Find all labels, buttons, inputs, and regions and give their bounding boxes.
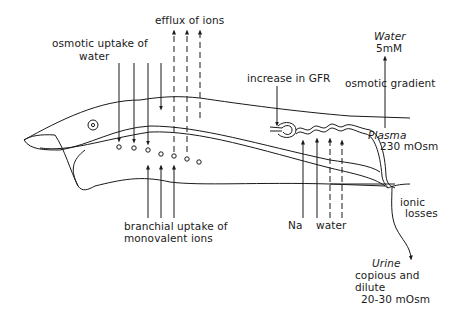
gill-pore [172,154,176,158]
water-env-conc: 5mM [376,42,402,54]
plasma-conc: 230 mOsm [380,140,438,152]
fish-belly [55,135,385,190]
gfr-label: increase in GFR [247,72,330,84]
urine-conc: 20-30 mOsm [361,293,430,305]
gill-pore [197,160,201,164]
glomerulus [270,126,292,135]
gill-pore [185,157,189,161]
water-env-label: Water [374,30,406,42]
gill-pore [117,145,121,149]
urine-desc-2: dilute [355,281,385,293]
ionic-losses-label-2: losses [405,207,438,219]
efflux-label: efflux of ions [155,14,224,26]
fish-outline-dorsal [24,97,410,140]
gill-pore [159,152,163,156]
gill-pore [132,146,136,150]
urine-label: Urine [372,257,401,269]
water-reabs-label: water [316,219,346,231]
eye-icon [88,120,98,130]
osmotic-gradient-label: osmotic gradient [345,77,436,89]
urine-desc-1: copious and [355,269,420,281]
fish-snout-tip [24,135,55,140]
fish-outline-inner-top [24,126,380,172]
osmotic-uptake-label-1: osmotic uptake of [52,37,148,49]
branchial-label-1: branchial uptake of [124,220,228,232]
na-label: Na [288,219,303,231]
gill-pore [146,148,150,152]
osmotic-uptake-label-2: water [79,50,109,62]
branchial-label-2: monovalent ions [124,232,213,244]
